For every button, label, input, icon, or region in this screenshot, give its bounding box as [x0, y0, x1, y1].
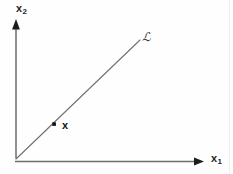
x-axis-label-subscript: 1 — [217, 157, 222, 166]
y-axis-label-subscript: 2 — [22, 7, 27, 16]
y-axis-label: x2 — [16, 3, 27, 16]
vector-space-diagram: x2 x1 x ℒ — [0, 0, 233, 174]
x-axis-arrowhead-icon — [194, 158, 204, 166]
point-x-marker — [52, 122, 56, 126]
line-L-path — [16, 40, 140, 159]
y-axis-arrowhead-icon — [12, 19, 20, 30]
x-axis-label: x1 — [211, 153, 222, 166]
line-L-label: ℒ — [142, 31, 151, 43]
point-x-label: x — [62, 120, 68, 131]
diagram-canvas — [0, 0, 233, 174]
